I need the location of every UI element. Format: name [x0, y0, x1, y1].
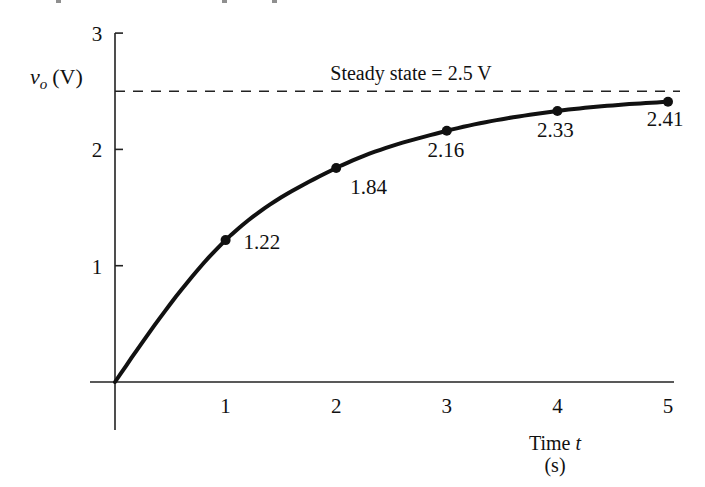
data-point-marker [221, 235, 231, 245]
y-axis-title: vo(V) [30, 64, 83, 92]
x-tick-label: 3 [442, 394, 453, 418]
data-point-label: 2.41 [647, 107, 684, 131]
vo-curve [115, 102, 668, 382]
y-tick-label: 2 [92, 138, 103, 162]
steady-state-label: Steady state = 2.5 V [330, 62, 492, 85]
data-point-label: 2.16 [427, 138, 464, 162]
data-points: 1.221.842.162.332.41 [221, 97, 684, 254]
data-point-marker [442, 126, 452, 136]
x-tick-label: 4 [552, 394, 563, 418]
x-tick-label: 2 [331, 394, 342, 418]
data-point-label: 1.84 [350, 175, 387, 199]
steady-state-line: Steady state = 2.5 V [115, 62, 680, 91]
chart: 12312345 Steady state = 2.5 V 1.221.842.… [0, 0, 705, 487]
data-point-label: 1.22 [244, 230, 281, 254]
response-curve [115, 102, 668, 382]
x-tick-label: 1 [220, 394, 231, 418]
y-tick-label: 1 [92, 255, 103, 279]
y-tick-label: 3 [92, 22, 103, 46]
x-tick-label: 5 [663, 394, 674, 418]
axis-labels: vo(V)Time t(s) [30, 64, 581, 477]
x-axis-unit: (s) [544, 454, 565, 477]
x-axis-title: Time t [529, 432, 582, 454]
data-point-marker [331, 163, 341, 173]
data-point-marker [552, 106, 562, 116]
data-point-marker [663, 97, 673, 107]
data-point-label: 2.33 [537, 118, 574, 142]
